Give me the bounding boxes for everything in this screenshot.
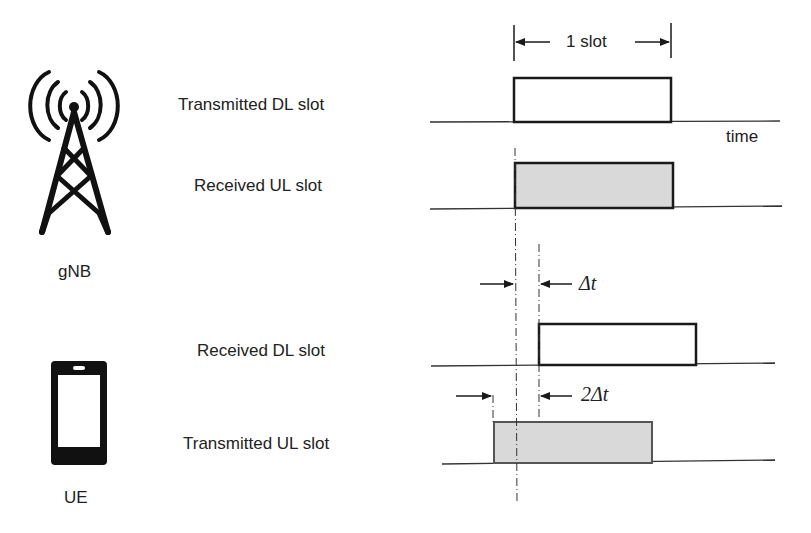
slot-box <box>494 422 652 463</box>
slot-width-label: 1 slot <box>566 32 607 52</box>
timeline-transmitted-dl <box>430 78 780 122</box>
timeline-transmitted-ul <box>442 422 775 464</box>
gnb-label: gNB <box>58 262 91 282</box>
timeline-received-dl <box>431 324 775 366</box>
slot-box <box>515 163 673 208</box>
slot-box <box>539 324 696 365</box>
double-delay-label: 2Δt <box>581 383 608 406</box>
timeline-received-ul <box>430 163 782 209</box>
timing-diagram <box>0 0 811 533</box>
row-label-received-ul: Received UL slot <box>194 176 322 196</box>
smartphone-icon <box>51 361 107 465</box>
row-label-transmitted-ul: Transmitted UL slot <box>183 434 329 454</box>
delay-label: Δt <box>579 272 596 295</box>
cell-tower-icon <box>30 72 118 232</box>
time-axis-label: time <box>726 127 758 147</box>
slot-box <box>514 78 671 122</box>
row-label-transmitted-dl: Transmitted DL slot <box>178 95 324 115</box>
ue-label: UE <box>64 488 88 508</box>
row-label-received-dl: Received DL slot <box>197 341 325 361</box>
